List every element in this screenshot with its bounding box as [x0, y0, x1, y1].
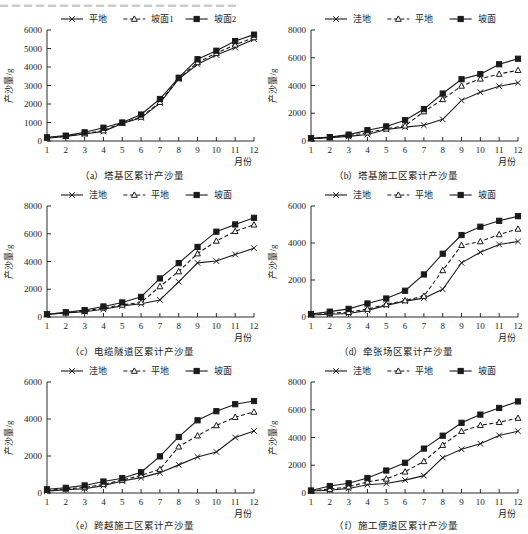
data-point-marker-square	[251, 32, 256, 37]
x-tick-label: 10	[476, 497, 486, 507]
data-point-marker-triangle	[459, 242, 465, 247]
x-tick-label: 7	[422, 321, 427, 331]
legend-label: 洼地	[353, 189, 371, 200]
data-point-marker-square	[101, 125, 106, 130]
series-line	[47, 218, 254, 314]
x-tick-label: 12	[250, 145, 259, 155]
y-tick-label: 4000	[288, 238, 307, 248]
data-point-marker-triangle	[251, 222, 257, 227]
chart-panel-b: 02000400060008000123456789101112产沙量/g月份洼…	[264, 8, 528, 184]
data-point-marker-square	[365, 301, 370, 306]
data-point-marker-triangle	[195, 433, 201, 438]
series-2	[44, 34, 257, 140]
y-tick-label: 1000	[24, 118, 43, 128]
legend-label: 平地	[151, 189, 169, 200]
data-point-marker-square	[63, 310, 68, 315]
y-tick-label: 0	[38, 136, 43, 146]
series-2	[308, 415, 521, 493]
data-point-marker-cross	[459, 98, 465, 104]
data-point-marker-square	[120, 300, 125, 305]
figure-panel-grid: 0100020003000400050006000123456789101112…	[0, 8, 528, 534]
series-line	[311, 431, 518, 491]
data-point-marker-square	[421, 446, 426, 451]
chart-axes	[47, 30, 254, 141]
y-tick-label: 4000	[24, 257, 43, 267]
legend-label: 洼地	[89, 189, 107, 200]
data-point-marker-triangle	[440, 96, 446, 101]
x-tick-label: 12	[514, 145, 523, 155]
data-point-marker-triangle	[515, 226, 521, 231]
y-tick-label: 0	[302, 488, 307, 498]
data-point-marker-square	[440, 91, 445, 96]
x-tick-label: 11	[495, 497, 504, 507]
x-tick-label: 8	[176, 145, 181, 155]
data-point-marker-square	[308, 488, 313, 493]
data-point-marker-square	[458, 16, 463, 21]
y-tick-label: 0	[38, 488, 43, 498]
data-point-marker-square	[233, 402, 238, 407]
chart-e-svg: 0200040006000123456789101112产沙量/g月份洼地平地坡…	[0, 360, 264, 520]
data-point-marker-square	[176, 261, 181, 266]
chart-f-svg: 02000400060008000123456789101112产沙量/g月份洼…	[264, 360, 528, 520]
data-point-marker-triangle	[459, 428, 465, 433]
y-tick-label: 4000	[24, 414, 43, 424]
chart-legend: 洼地平地坡面	[61, 365, 232, 376]
chart-caption-b: （b）塔基施工区累计产沙量	[264, 171, 528, 182]
data-point-marker-triangle	[402, 297, 408, 302]
legend-label: 平地	[415, 13, 433, 24]
y-axis-title: 产沙量/g	[267, 244, 278, 279]
x-tick-label: 6	[403, 145, 408, 155]
y-tick-label: 2000	[24, 284, 43, 294]
data-point-marker-square	[346, 481, 351, 486]
x-tick-label: 8	[176, 321, 181, 331]
series-1	[308, 80, 521, 142]
series-3	[44, 32, 256, 140]
legend-label: 坡面	[214, 365, 232, 376]
data-point-marker-square	[478, 412, 483, 417]
chart-b-svg: 02000400060008000123456789101112产沙量/g月份洼…	[264, 8, 528, 170]
data-point-marker-cross	[440, 286, 446, 292]
x-tick-label: 8	[440, 321, 445, 331]
series-line	[47, 225, 254, 315]
data-point-marker-square	[214, 48, 219, 53]
y-axis-title: 产沙量/g	[267, 68, 278, 103]
x-tick-label: 4	[365, 145, 370, 155]
x-tick-label: 8	[440, 145, 445, 155]
x-tick-label: 4	[101, 321, 106, 331]
data-point-marker-square	[327, 135, 332, 140]
data-point-marker-triangle	[251, 409, 257, 414]
chart-c-svg: 02000400060008000123456789101112产沙量/g月份洼…	[0, 184, 264, 346]
data-point-marker-square	[176, 75, 181, 80]
data-point-marker-square	[365, 128, 370, 133]
legend-label: 洼地	[89, 365, 107, 376]
data-point-marker-square	[157, 96, 162, 101]
x-tick-label: 10	[476, 321, 486, 331]
data-point-marker-square	[458, 192, 463, 197]
series-2	[308, 226, 521, 317]
x-tick-label: 5	[384, 497, 389, 507]
x-tick-label: 7	[422, 145, 427, 155]
data-point-marker-triangle	[157, 283, 163, 288]
y-tick-label: 4000	[288, 81, 307, 91]
y-tick-label: 6000	[24, 229, 43, 239]
data-point-marker-cross	[459, 446, 465, 452]
x-tick-label: 9	[459, 321, 464, 331]
x-tick-label: 7	[158, 145, 163, 155]
series-line	[311, 401, 518, 490]
x-tick-label: 1	[309, 145, 314, 155]
data-point-marker-square	[440, 251, 445, 256]
chart-caption-f: （f）施工便道区累计产沙量	[264, 521, 528, 532]
x-tick-label: 2	[328, 321, 333, 331]
legend-label: 平地	[415, 365, 433, 376]
legend-label: 坡面	[214, 189, 232, 200]
x-axis-title: 月份	[234, 508, 252, 519]
data-point-marker-triangle	[402, 469, 408, 474]
chart-a-svg: 0100020003000400050006000123456789101112…	[0, 8, 264, 170]
data-point-marker-square	[384, 468, 389, 473]
chart-caption-c: （c）电缆隧道区累计产沙量	[0, 347, 264, 358]
data-point-marker-square	[384, 296, 389, 301]
x-tick-label: 3	[346, 497, 351, 507]
x-tick-label: 2	[328, 497, 333, 507]
x-tick-label: 5	[120, 145, 125, 155]
x-tick-label: 12	[514, 497, 523, 507]
